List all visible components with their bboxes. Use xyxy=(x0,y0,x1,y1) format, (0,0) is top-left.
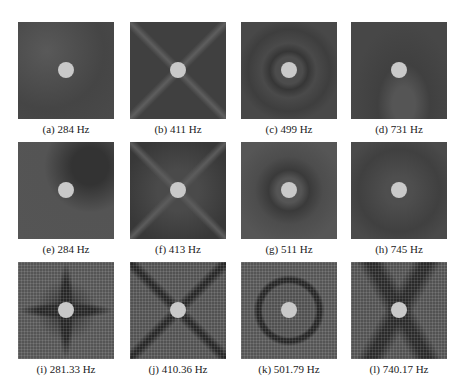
center-mass-circle xyxy=(58,302,74,318)
panel-caption: (c) 499 Hz xyxy=(234,123,344,135)
mode-shape-image xyxy=(241,262,337,359)
center-mass-circle xyxy=(281,182,297,198)
panel-caption: (e) 284 Hz xyxy=(11,243,121,255)
center-mass-circle xyxy=(58,182,74,198)
center-mass-circle xyxy=(281,62,297,78)
center-mass-circle xyxy=(58,62,74,78)
mode-shape-image xyxy=(130,262,226,359)
mode-shape-image xyxy=(130,142,226,239)
panel-caption: (h) 745 Hz xyxy=(344,243,454,255)
mode-shape-image xyxy=(18,262,114,359)
center-mass-circle xyxy=(170,302,186,318)
panel-caption: (j) 410.36 Hz xyxy=(123,363,233,375)
center-mass-circle xyxy=(170,182,186,198)
mode-shape-image xyxy=(18,142,114,239)
panel-caption: (b) 411 Hz xyxy=(123,123,233,135)
center-mass-circle xyxy=(391,182,407,198)
mode-shape-image xyxy=(351,22,447,119)
mode-shape-image xyxy=(351,142,447,239)
mode-shape-image xyxy=(351,262,447,359)
center-mass-circle xyxy=(281,302,297,318)
mode-shape-image xyxy=(18,22,114,119)
panel-caption: (g) 511 Hz xyxy=(234,243,344,255)
panel-caption: (d) 731 Hz xyxy=(344,123,454,135)
panel-caption: (a) 284 Hz xyxy=(11,123,121,135)
mode-shape-image xyxy=(241,22,337,119)
center-mass-circle xyxy=(391,302,407,318)
mode-shape-image xyxy=(130,22,226,119)
center-mass-circle xyxy=(391,62,407,78)
panel-caption: (l) 740.17 Hz xyxy=(344,363,454,375)
center-mass-circle xyxy=(170,62,186,78)
mode-shape-image xyxy=(241,142,337,239)
panel-caption: (i) 281.33 Hz xyxy=(11,363,121,375)
panel-caption: (k) 501.79 Hz xyxy=(234,363,344,375)
panel-caption: (f) 413 Hz xyxy=(123,243,233,255)
